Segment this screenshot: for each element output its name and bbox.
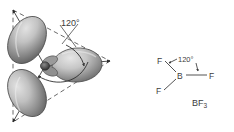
- formula-base: BF: [192, 98, 204, 108]
- figure-vector-layer: [0, 0, 234, 132]
- formula-subscript: 3: [204, 102, 208, 109]
- orbital-angle-label: 120°: [61, 19, 80, 28]
- orbital-lobe-right: [51, 46, 103, 83]
- atom-label-f-top-left: F: [157, 57, 162, 66]
- atom-label-f-bottom-left: F: [156, 87, 161, 96]
- bonds: [164, 61, 207, 90]
- orbital-diagram: [0, 10, 110, 124]
- atom-label-b-center: B: [177, 72, 183, 81]
- molecular-formula: BF3: [192, 99, 207, 108]
- atom-label-f-right: F: [209, 72, 214, 81]
- bf3-geometry-figure: 120° 120° F B F F BF3: [0, 0, 234, 132]
- lewis-angle-label: 120°: [178, 56, 194, 64]
